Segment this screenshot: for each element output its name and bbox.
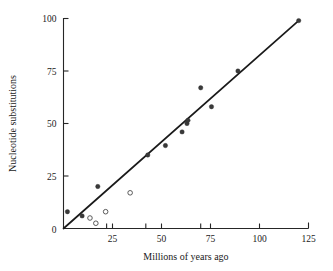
data-point-open-circles-3: [128, 191, 133, 196]
data-point-closed-circles-10: [236, 69, 240, 73]
y-axis-title: Nucleotide substitutions: [7, 75, 18, 172]
x-tick-label-25: 25: [108, 234, 118, 244]
data-point-closed-circles-1: [80, 214, 84, 218]
data-point-open-circles-0: [88, 216, 93, 221]
data-point-closed-circles-0: [65, 210, 69, 214]
regression-line: [64, 21, 299, 229]
x-tick-label-75: 75: [206, 234, 216, 244]
x-tick-label-50: 50: [157, 234, 167, 244]
x-tick-label-125: 125: [301, 234, 316, 244]
scatter-plot: 0255075100125255075100 Millions of years…: [0, 0, 333, 271]
data-point-open-circles-2: [103, 209, 108, 214]
y-tick-label-25: 25: [47, 172, 57, 182]
y-tick-label-100: 100: [42, 14, 57, 24]
data-point-closed-circles-3: [146, 153, 150, 157]
data-point-closed-circles-4: [163, 143, 167, 147]
data-point-closed-circles-9: [209, 105, 213, 109]
chart-figure: 0255075100125255075100 Millions of years…: [0, 0, 333, 271]
y-tick-label-50: 50: [47, 119, 57, 129]
regression-line-segment: [64, 21, 299, 229]
axis-titles: Millions of years agoNucleotide substitu…: [7, 75, 229, 262]
data-point-closed-circles-2: [96, 184, 100, 188]
data-point-closed-circles-5: [180, 130, 184, 134]
data-point-closed-circles-11: [297, 18, 301, 22]
x-axis-title: Millions of years ago: [143, 251, 228, 262]
data-point-closed-circles-7: [186, 118, 190, 122]
y-tick-label-75: 75: [47, 67, 57, 77]
tick-labels: 0255075100125255075100: [42, 14, 316, 244]
data-point-open-circles-1: [94, 221, 99, 226]
x-tick-label-0: 0: [52, 225, 57, 235]
data-point-closed-circles-8: [199, 86, 203, 90]
x-tick-label-100: 100: [252, 234, 267, 244]
